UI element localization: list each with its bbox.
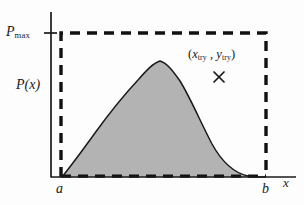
y-axis-tick-label-pmax: Pmax — [6, 25, 30, 40]
x-axis-tick-label-a: a — [56, 182, 63, 196]
curve-fill-area — [62, 61, 266, 177]
try-point-cross-icon — [214, 72, 224, 82]
plot-svg — [0, 0, 304, 205]
x-axis-tick-label-b: b — [262, 182, 269, 196]
pmax-symbol: P — [6, 24, 15, 39]
y-try-subscript: try — [222, 53, 231, 62]
figure-container: Pmax P(x) a b x (xtry , ytry) — [0, 0, 304, 205]
y-axis-label: P(x) — [16, 78, 40, 92]
x-try-subscript: try — [198, 53, 207, 62]
close-paren: ) — [231, 47, 235, 61]
pmax-subscript: max — [15, 30, 31, 40]
x-axis-label: x — [283, 176, 289, 189]
try-point-annotation-label: (xtry , ytry) — [188, 48, 235, 62]
annotation-separator: , — [207, 47, 216, 61]
